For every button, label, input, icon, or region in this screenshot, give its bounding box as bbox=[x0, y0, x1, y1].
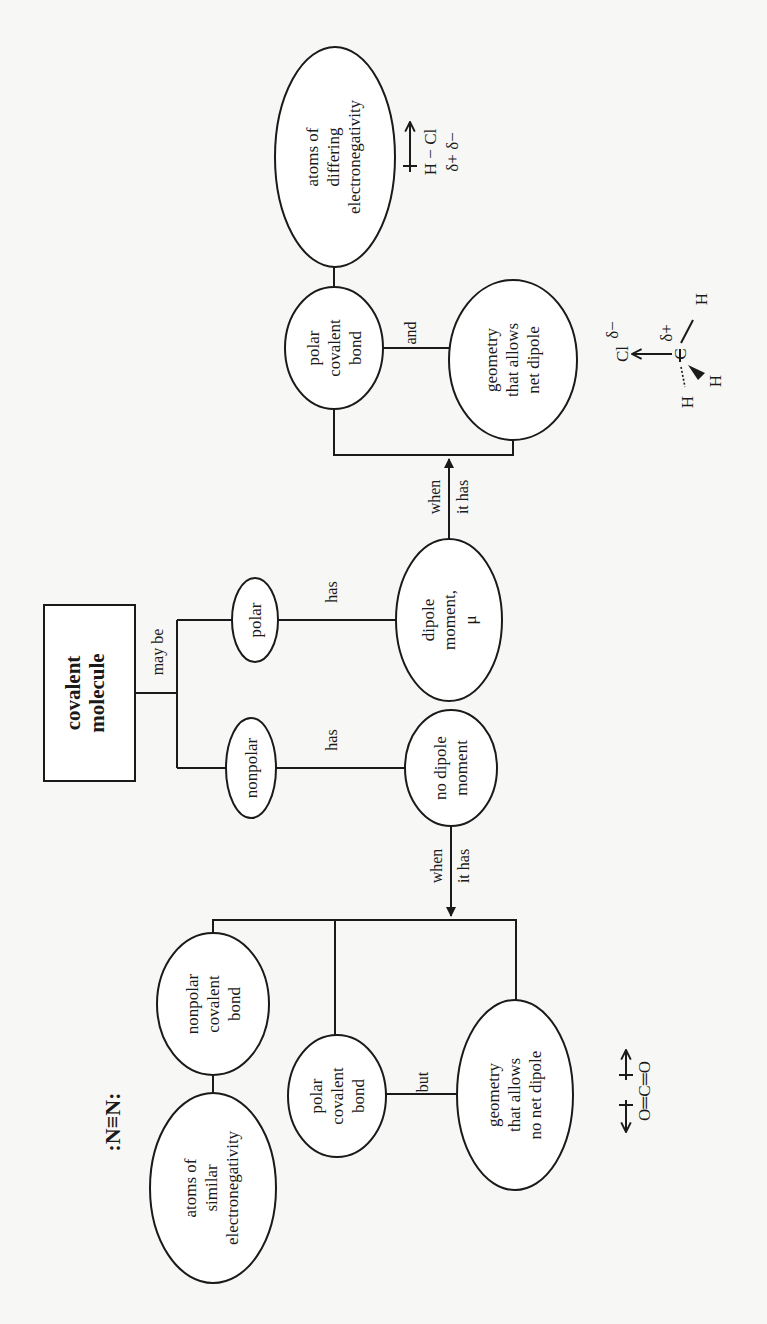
svg-text:covalent: covalent bbox=[325, 319, 344, 377]
label-has-polar: has bbox=[323, 581, 340, 602]
label-when-1: when bbox=[426, 480, 443, 515]
svg-text:geometry: geometry bbox=[484, 1062, 503, 1127]
svg-text:polar: polar bbox=[246, 602, 265, 637]
svg-text:no net dipole: no net dipole bbox=[526, 1051, 545, 1140]
label-may-be: may be bbox=[149, 629, 167, 676]
svg-text:differing: differing bbox=[324, 127, 343, 187]
node-polar: polar bbox=[232, 578, 278, 662]
svg-text:atoms of: atoms of bbox=[303, 127, 322, 186]
label-it-has-2: it has bbox=[455, 849, 472, 883]
svg-text:bond: bond bbox=[349, 1079, 368, 1114]
svg-text:H: H bbox=[678, 396, 697, 408]
svg-text:net dipole: net dipole bbox=[524, 326, 543, 394]
n2-formula: :N≡N: bbox=[100, 1093, 125, 1152]
label-when-2: when bbox=[428, 849, 445, 884]
svg-text:nonpolar: nonpolar bbox=[183, 973, 202, 1034]
example-ch3cl: Cl δ− δ+ C H H H bbox=[603, 293, 725, 408]
svg-text:covalent: covalent bbox=[204, 975, 223, 1033]
svg-text:moment: moment bbox=[452, 740, 471, 796]
node-nonpolar: nonpolar bbox=[226, 718, 276, 818]
svg-text:polar: polar bbox=[307, 1078, 326, 1113]
label-has-nonpolar: has bbox=[323, 729, 340, 750]
svg-text:electronegativity: electronegativity bbox=[345, 99, 364, 214]
example-hcl: H − Cl δ+ δ− bbox=[403, 122, 462, 175]
svg-text:similar: similar bbox=[202, 1164, 221, 1212]
node-dipole-moment: dipole moment, μ bbox=[396, 539, 502, 701]
svg-text:polar: polar bbox=[304, 330, 323, 365]
svg-text:covalent: covalent bbox=[328, 1067, 347, 1125]
example-co2: O═C═O bbox=[619, 1050, 654, 1132]
root-line-2: molecule bbox=[85, 653, 109, 732]
svg-text:atoms of: atoms of bbox=[181, 1158, 200, 1217]
svg-text:Cl: Cl bbox=[613, 346, 632, 362]
svg-text:electronegativity: electronegativity bbox=[223, 1130, 242, 1245]
svg-text:δ−: δ− bbox=[603, 321, 622, 339]
svg-text:moment,: moment, bbox=[440, 590, 459, 650]
node-no-dipole-moment: no dipole moment bbox=[405, 710, 497, 826]
concept-map: covalent molecule may be has has when it… bbox=[0, 0, 767, 1324]
label-it-has-1: it has bbox=[454, 480, 471, 514]
node-polar-covalent-bond-right: polar covalent bond bbox=[285, 287, 383, 409]
svg-text:H: H bbox=[692, 293, 711, 305]
node-polar-covalent-bond-left: polar covalent bond bbox=[288, 1035, 386, 1157]
svg-text:nonpolar: nonpolar bbox=[242, 737, 261, 798]
co2-formula: O═C═O bbox=[635, 1061, 654, 1121]
svg-text:μ: μ bbox=[461, 615, 480, 624]
root-node: covalent molecule bbox=[44, 605, 135, 781]
node-atoms-similar-electronegativity: atoms of similar electronegativity bbox=[150, 1093, 276, 1283]
svg-text:C: C bbox=[671, 348, 690, 359]
svg-text:geometry: geometry bbox=[482, 327, 501, 392]
svg-text:that allows: that allows bbox=[503, 323, 522, 397]
node-geometry-no-net-dipole: geometry that allows no net dipole bbox=[457, 1000, 573, 1190]
hcl-formula: H − Cl bbox=[421, 129, 440, 176]
svg-text:dipole: dipole bbox=[419, 599, 438, 642]
node-atoms-differing-electronegativity: atoms of differing electronegativity bbox=[275, 47, 395, 267]
node-geometry-net-dipole: geometry that allows net dipole bbox=[449, 280, 577, 440]
wedge-bond-icon bbox=[688, 365, 705, 380]
svg-text:bond: bond bbox=[225, 987, 244, 1022]
hcl-charges: δ+ δ− bbox=[443, 132, 462, 171]
svg-text:that allows: that allows bbox=[505, 1058, 524, 1132]
example-n2: :N≡N: bbox=[100, 1093, 125, 1152]
hash-bond-icon bbox=[681, 367, 685, 387]
svg-text:H: H bbox=[706, 375, 725, 387]
svg-text:bond: bond bbox=[346, 331, 365, 366]
label-but: but bbox=[414, 1071, 431, 1092]
label-and: and bbox=[402, 321, 419, 344]
svg-text:no dipole: no dipole bbox=[431, 736, 450, 800]
node-nonpolar-covalent-bond: nonpolar covalent bond bbox=[157, 933, 269, 1075]
root-line-1: covalent bbox=[61, 656, 85, 731]
svg-text:δ+: δ+ bbox=[657, 324, 676, 342]
